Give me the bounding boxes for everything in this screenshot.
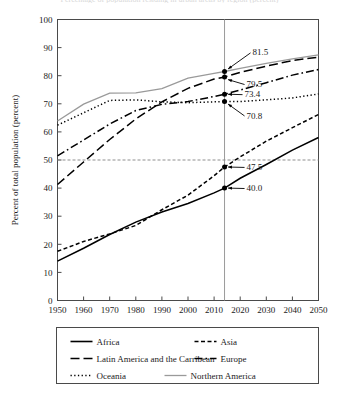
x-axis-tick-label: 2040 — [283, 305, 302, 315]
legend-label-africa: Africa — [97, 337, 120, 347]
x-axis-tick-label: 1970 — [101, 305, 120, 315]
y-axis-title: Percent of total population (percent) — [10, 95, 20, 225]
y-axis-tick-label: 100 — [39, 15, 53, 25]
annotation-marker — [222, 92, 227, 97]
y-axis-tick-label: 90 — [44, 43, 54, 53]
annotation-label: 70.8 — [247, 111, 263, 121]
annotation-marker — [222, 69, 227, 74]
legend-label-northern-america: Northern America — [191, 371, 256, 381]
annotation-marker — [222, 186, 227, 191]
annotation-label: 79.5 — [247, 79, 263, 89]
y-axis-tick-label: 60 — [44, 127, 54, 137]
x-axis-tick-label: 2020 — [231, 305, 250, 315]
annotation-marker — [222, 99, 227, 104]
x-axis-tick-label: 1990 — [153, 305, 172, 315]
annotation-label: 40.0 — [247, 183, 263, 193]
y-axis-tick-label: 20 — [44, 240, 54, 250]
x-axis-tick-label: 1980 — [127, 305, 146, 315]
x-axis-tick-label: 1960 — [75, 305, 94, 315]
annotation-label: 73.4 — [245, 89, 261, 99]
y-axis-tick-label: 30 — [44, 211, 54, 221]
legend-label-oceania: Oceania — [97, 371, 126, 381]
y-axis-tick-label: 70 — [44, 99, 54, 109]
x-axis-tick-label: 2050 — [310, 305, 329, 315]
annotation-label: 81.5 — [253, 47, 269, 57]
x-axis-tick-label: 2030 — [257, 305, 276, 315]
x-axis-tick-label: 2000 — [179, 305, 198, 315]
annotation-marker — [222, 165, 227, 170]
chart-svg: 0102030405060708090100195019601970198019… — [0, 0, 339, 396]
y-axis-tick-label: 50 — [44, 155, 54, 165]
chart-figure: Percentage of population residing in urb… — [0, 0, 339, 396]
legend-label-europe: Europe — [221, 354, 247, 364]
y-axis-tick-label: 10 — [44, 268, 54, 278]
annotation-label: 47.5 — [247, 162, 263, 172]
x-axis-tick-label: 2010 — [205, 305, 224, 315]
annotation-marker — [222, 75, 227, 80]
y-axis-tick-label: 80 — [44, 71, 54, 81]
x-axis-tick-label: 1950 — [49, 305, 68, 315]
cut-off-title: Percentage of population residing in urb… — [0, 0, 339, 3]
y-axis-tick-label: 40 — [44, 183, 54, 193]
legend-label-asia: Asia — [221, 337, 238, 347]
